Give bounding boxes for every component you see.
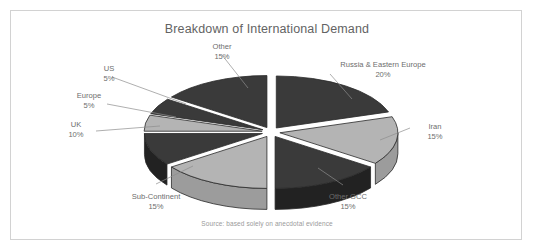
label-russia-pct: 20% <box>320 70 446 80</box>
label-europe-name: Europe <box>77 91 102 100</box>
label-other-gcc: Other GCC 15% <box>303 192 393 211</box>
label-iran-pct: 15% <box>410 132 460 142</box>
label-russia-name: Russia & Eastern Europe <box>340 60 425 69</box>
chart-canvas: Breakdown of International Demand .top{s… <box>0 0 534 252</box>
label-us: US 5% <box>74 64 144 83</box>
label-uk-name: UK <box>71 120 82 129</box>
label-sub-continent-pct: 15% <box>101 202 211 212</box>
label-other-gcc-name: Other GCC <box>329 192 367 201</box>
label-other: Other 15% <box>180 42 264 61</box>
label-sub-continent: Sub-Continent 15% <box>101 192 211 211</box>
label-iran: Iran 15% <box>410 122 460 141</box>
label-other-name: Other <box>213 42 232 51</box>
label-russia-eastern-europe: Russia & Eastern Europe 20% <box>320 60 446 79</box>
label-europe: Europe 5% <box>54 91 124 110</box>
label-us-pct: 5% <box>74 74 144 84</box>
label-us-name: US <box>104 64 115 73</box>
label-europe-pct: 5% <box>54 101 124 111</box>
label-sub-continent-name: Sub-Continent <box>132 192 181 201</box>
label-uk-pct: 10% <box>44 130 108 140</box>
label-other-pct: 15% <box>180 52 264 62</box>
label-iran-name: Iran <box>428 122 441 131</box>
label-uk: UK 10% <box>44 120 108 139</box>
label-other-gcc-pct: 15% <box>303 202 393 212</box>
source-note: Source: based solely on anecdotal eviden… <box>0 220 534 227</box>
